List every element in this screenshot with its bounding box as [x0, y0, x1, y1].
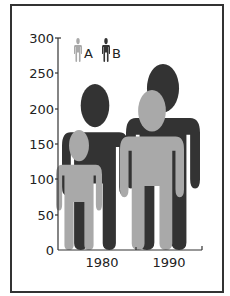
x-tick-1980: 1980: [85, 255, 118, 270]
legend-icon-b: [102, 38, 110, 62]
y-tick-labels: 0 50 100 150 200 250 300: [29, 31, 54, 258]
x-tick-1990: 1990: [152, 255, 185, 270]
legend-label-a: A: [84, 46, 93, 61]
y-tick-250: 250: [29, 66, 54, 81]
legend-icon-a: [74, 38, 82, 62]
legend: A B: [74, 38, 121, 62]
legend-label-b: B: [112, 46, 121, 61]
y-tick-0: 0: [46, 243, 54, 258]
y-axis: [55, 38, 61, 250]
pictogram-chart: 0 50 100 150 200 250 300 1980 1990 A B: [0, 0, 230, 296]
x-tick-labels: 1980 1990: [85, 255, 185, 270]
y-tick-100: 100: [29, 172, 54, 187]
y-tick-50: 50: [37, 208, 54, 223]
y-tick-200: 200: [29, 102, 54, 117]
y-tick-150: 150: [29, 137, 54, 152]
y-tick-300: 300: [29, 31, 54, 46]
